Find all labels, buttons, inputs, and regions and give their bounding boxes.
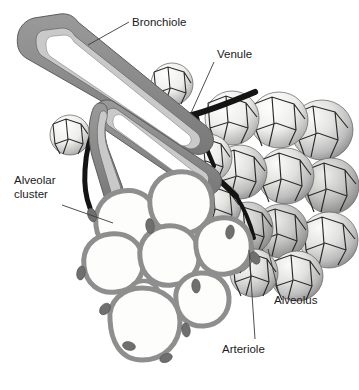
label-alveolar-cluster-line2: cluster — [14, 188, 48, 200]
alveolar-sac — [196, 218, 252, 274]
alveolus-shaded — [50, 115, 90, 155]
label-alveolus: Alveolus — [274, 294, 318, 306]
alveolar-sac — [110, 288, 180, 360]
alveoli-diagram: Bronchiole Venule Alveolar cluster Alveo… — [0, 0, 359, 390]
label-alveolar-cluster-line1: Alveolar — [14, 174, 56, 186]
label-venule: Venule — [217, 48, 252, 60]
label-arteriole: Arteriole — [222, 343, 265, 355]
label-bronchiole: Bronchiole — [132, 16, 186, 28]
alveolar-sac — [176, 273, 229, 326]
